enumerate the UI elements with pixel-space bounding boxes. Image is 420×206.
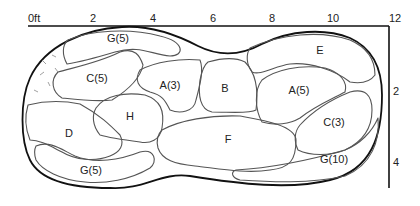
x-tick-6: 6 xyxy=(210,13,216,24)
label-c3: C(3) xyxy=(323,117,344,128)
label-f: F xyxy=(225,134,232,145)
x-tick-8: 8 xyxy=(269,13,275,24)
label-h: H xyxy=(126,111,134,122)
y-tick-4: 4 xyxy=(393,157,399,168)
label-g10: G(10) xyxy=(320,154,348,165)
x-tick-10: 10 xyxy=(327,13,339,24)
x-tick-12: 12 xyxy=(389,13,401,24)
diagram-drawing xyxy=(0,0,420,206)
region-d xyxy=(26,102,122,160)
x-tick-0: 0ft xyxy=(28,13,40,24)
label-d: D xyxy=(65,128,73,139)
label-e: E xyxy=(316,45,323,56)
label-g5-bottom: G(5) xyxy=(80,165,102,176)
label-a3: A(3) xyxy=(160,80,181,91)
x-tick-4: 4 xyxy=(150,13,156,24)
garden-bed-diagram: 0ft 2 4 6 8 10 12 2 4 G(5) C(5) A(3) B E… xyxy=(0,0,420,206)
label-g5-top: G(5) xyxy=(107,33,129,44)
label-a5: A(5) xyxy=(289,85,310,96)
label-c5: C(5) xyxy=(86,73,107,84)
region-g10 xyxy=(233,118,379,182)
x-tick-2: 2 xyxy=(90,13,96,24)
soil-texture xyxy=(34,55,58,92)
y-tick-2: 2 xyxy=(393,86,399,97)
label-b: B xyxy=(221,83,228,94)
